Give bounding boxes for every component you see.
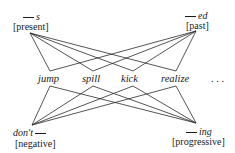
stem-jump: jump [38, 73, 59, 84]
ellipsis: . . . [211, 73, 224, 84]
stem-spill: spill [82, 73, 100, 84]
progressive-label: [progressive] [172, 137, 225, 147]
blank-slot [23, 17, 34, 18]
stem-realize: realize [161, 73, 189, 84]
past-label: [past] [186, 21, 209, 31]
negative-label: [negative] [15, 139, 56, 149]
negative-form: don't [13, 128, 48, 138]
stem-kick: kick [121, 73, 138, 84]
blank-slot [186, 132, 197, 133]
blank-slot [185, 16, 196, 17]
blank-slot [35, 133, 46, 134]
present-label: [present] [13, 22, 49, 32]
